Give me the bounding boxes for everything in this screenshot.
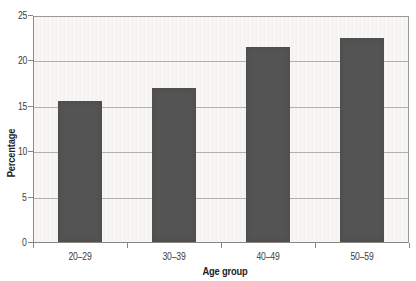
bar-40–49 — [246, 47, 290, 242]
x-tick-1 — [127, 243, 128, 248]
y-tick-label-text: 10 — [18, 146, 27, 157]
bar-50–59 — [340, 38, 384, 242]
x-axis-title: Age group — [202, 265, 247, 277]
y-tick-5 — [28, 197, 33, 198]
y-tick-label-15: 15 — [5, 101, 27, 112]
y-tick-label-text: 5 — [22, 192, 27, 203]
y-tick-20 — [28, 60, 33, 61]
y-tick-label-text: 15 — [18, 101, 27, 112]
x-tick-2 — [221, 243, 222, 248]
y-tick-25 — [28, 15, 33, 16]
y-tick-label-10: 10 — [5, 146, 27, 157]
y-tick-label-20: 20 — [5, 55, 27, 66]
plot-area — [33, 16, 409, 243]
x-tick-label-30–39: 30–39 — [162, 250, 185, 262]
x-tick-0 — [33, 243, 34, 248]
y-tick-label-text: 0 — [22, 237, 27, 248]
x-tick-label-50–59: 50–59 — [350, 250, 373, 262]
bar-20–29 — [58, 101, 102, 242]
y-tick-label-text: 25 — [18, 10, 27, 21]
y-tick-label-25: 25 — [5, 10, 27, 21]
x-tick-label-40–49: 40–49 — [256, 250, 279, 262]
y-tick-label-0: 0 — [5, 237, 27, 248]
bar-chart-figure: Percentage 051015202520–2930–3940–4950–5… — [0, 0, 416, 281]
y-tick-label-5: 5 — [5, 192, 27, 203]
x-tick-label-20–29: 20–29 — [68, 250, 91, 262]
x-tick-3 — [315, 243, 316, 248]
bar-30–39 — [152, 88, 196, 242]
x-tick-4 — [409, 243, 410, 248]
y-tick-15 — [28, 106, 33, 107]
y-tick-10 — [28, 151, 33, 152]
y-tick-label-text: 20 — [18, 55, 27, 66]
